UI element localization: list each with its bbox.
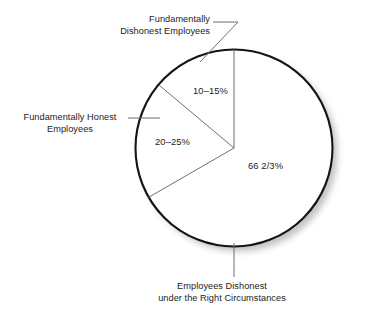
pie-chart-canvas — [0, 0, 372, 311]
callout-line-2: Employees — [8, 123, 132, 135]
pie-chart-figure: Fundamentally Dishonest Employees Fundam… — [0, 0, 372, 311]
callout-line-1: Fundamentally Honest — [8, 111, 132, 123]
callout-label-fundamentally-honest-employees: Fundamentally Honest Employees — [8, 111, 132, 136]
callout-label-employees-dishonest-under-right-circumstances: Employees Dishonest under the Right Circ… — [149, 280, 295, 305]
callout-line-1: Employees Dishonest — [149, 280, 295, 292]
callout-line-2: Dishonest Employees — [76, 25, 210, 37]
slice-value-fundamentally-honest-employees: 20–25% — [155, 136, 190, 147]
callout-line-2: under the Right Circumstances — [149, 292, 295, 304]
slice-value-fundamentally-dishonest-employees: 10–15% — [193, 85, 228, 96]
callout-line-1: Fundamentally — [76, 13, 210, 25]
callout-label-fundamentally-dishonest-employees: Fundamentally Dishonest Employees — [76, 13, 210, 38]
slice-value-employees-dishonest-under-right-circumstances: 66 2/3% — [248, 160, 283, 171]
